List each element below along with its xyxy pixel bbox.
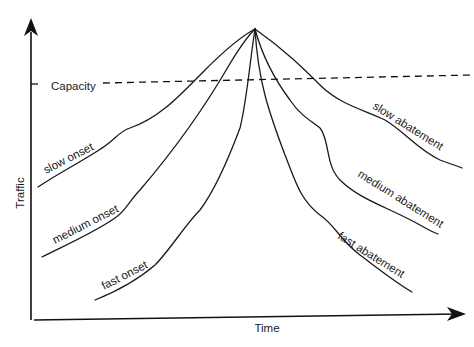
x-axis-label: Time bbox=[254, 322, 279, 334]
label-medium-abatement: medium abatement bbox=[356, 168, 447, 231]
label-slow-abatement: slow abatement bbox=[371, 100, 446, 153]
traffic-onset-abatement-diagram: Traffic Time Capacity slow onset medium … bbox=[0, 0, 474, 347]
x-axis bbox=[34, 314, 458, 320]
y-axis-label: Traffic bbox=[14, 177, 26, 209]
curve-fast-abatement bbox=[255, 29, 412, 292]
label-medium-onset: medium onset bbox=[50, 202, 121, 246]
capacity-label: Capacity bbox=[51, 80, 96, 92]
capacity-line bbox=[103, 75, 472, 83]
label-slow-onset: slow onset bbox=[41, 140, 96, 176]
curve-fast-onset bbox=[95, 29, 255, 300]
label-fast-abatement: fast abatement bbox=[336, 230, 408, 281]
